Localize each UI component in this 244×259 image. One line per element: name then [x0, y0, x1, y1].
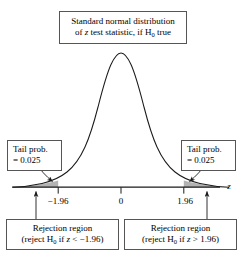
title-box: Standard normal distribution of z test s…: [59, 11, 187, 44]
tail-right-line-1: Tail prob.: [182, 144, 235, 155]
rejection-region-right-box: Rejection region (reject H0 if z > 1.96): [124, 219, 237, 250]
title-line-2-suffix: true: [155, 27, 171, 37]
tail-right-line-2: = 0.025: [182, 155, 235, 166]
reject-right-line-1: Rejection region: [125, 223, 236, 234]
title-line-2: of z test statistic, if H0 true: [60, 27, 186, 39]
reject-left-line-1: Rejection region: [7, 223, 118, 234]
reject-right-prefix: (reject H: [142, 234, 174, 244]
tail-probability-left-box: Tail prob. = 0.025: [7, 140, 62, 171]
axis-tick-label-positive: 1.96: [168, 196, 202, 206]
normal-distribution-figure: Standard normal distribution of z test s…: [0, 0, 244, 259]
title-line-2-middle: test statistic, if H: [88, 27, 151, 37]
title-line-2-prefix: of: [75, 27, 85, 37]
axis-tick-label-zero: 0: [108, 196, 134, 206]
reject-right-line-2: (reject H0 if z > 1.96): [125, 234, 236, 246]
reject-left-line-2: (reject H0 if z < −1.96): [7, 234, 118, 246]
x-axis-name-label: z: [222, 181, 236, 191]
reject-left-suffix: < −1.96): [70, 234, 103, 244]
reject-left-prefix: (reject H: [22, 234, 54, 244]
tail-left-line-1: Tail prob.: [8, 144, 61, 155]
reject-right-suffix: > 1.96): [191, 234, 219, 244]
title-line-1: Standard normal distribution: [60, 16, 186, 27]
tail-probability-right-box: Tail prob. = 0.025: [181, 140, 236, 171]
reject-right-middle: if: [177, 234, 187, 244]
reject-left-middle: if: [57, 234, 67, 244]
tail-left-line-2: = 0.025: [8, 155, 61, 166]
rejection-region-left-box: Rejection region (reject H0 if z < −1.96…: [6, 219, 119, 250]
axis-tick-label-negative: −1.96: [38, 196, 78, 206]
left-tail-shading: [13, 180, 58, 187]
